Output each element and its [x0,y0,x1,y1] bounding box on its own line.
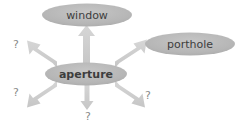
unknown-label-down-right: ? [145,89,151,102]
arrow-downleft-to-unknown [27,80,57,108]
diagram-canvas: window porthole aperture ? ? ? ? [0,0,240,136]
node-porthole[interactable]: porthole [145,33,235,56]
diagram-svg: window porthole aperture ? ? ? ? [0,0,240,136]
node-porthole-label: porthole [167,38,213,51]
node-aperture-label: aperture [59,68,113,81]
unknown-label-up-left: ? [13,38,19,51]
node-aperture[interactable]: aperture [45,63,127,86]
unknown-label-down-left: ? [13,86,19,99]
arrow-upright-to-porthole [115,40,147,69]
arrow-downright-to-unknown [115,80,145,108]
arrow-down-to-unknown [81,82,94,110]
arrow-up-to-window [78,25,95,66]
node-window-label: window [66,9,108,22]
unknown-label-down: ? [85,110,91,123]
node-window[interactable]: window [42,4,132,27]
arrow-upleft-to-unknown [27,41,57,69]
